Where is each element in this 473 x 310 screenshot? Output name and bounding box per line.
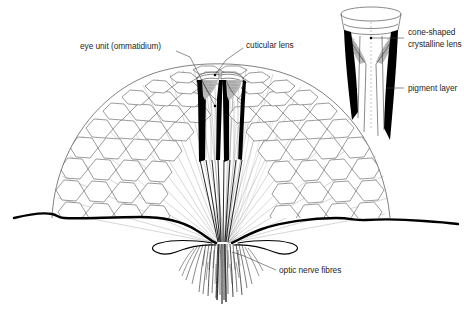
ommatidium-left [197,80,222,162]
optic-nerve-bundle [179,244,263,304]
compound-eye-diagram: eye unit (ommatidium) cuticular lens con… [0,0,473,310]
ommatidium-inset [341,7,401,140]
label-optic-nerve-fibres: optic nerve fibres [279,265,341,275]
label-pigment-layer: pigment layer [408,83,457,93]
ommatidium-right [222,80,246,162]
figure-root: eye unit (ommatidium) cuticular lens con… [0,0,473,310]
label-cone-shaped-line1: cone-shaped [408,27,456,37]
label-eye-unit: eye unit (ommatidium) [80,41,161,51]
inset-leader-dot [370,37,373,40]
label-cuticular-lens: cuticular lens [246,40,294,50]
label-crystalline-lens-line2: crystalline lens [408,39,462,49]
